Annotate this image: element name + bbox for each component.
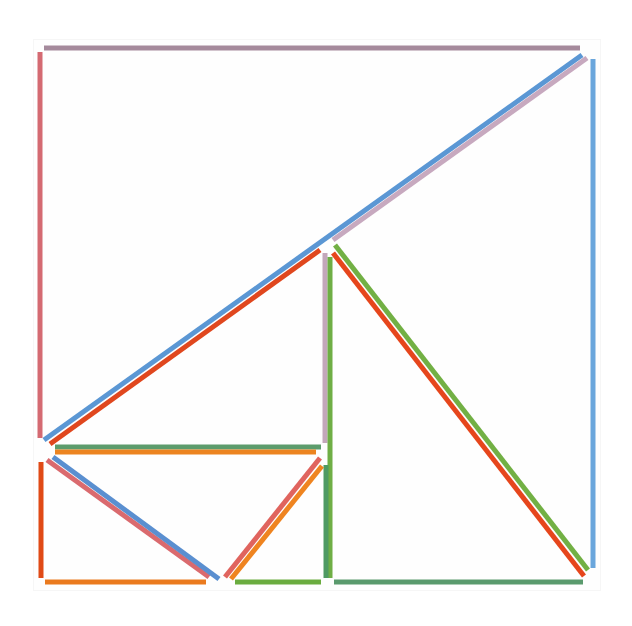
left-v-diagonal-pink-line: [47, 460, 209, 577]
right-triangle-green-line: [335, 245, 588, 570]
big-diagonal-mauve-line: [333, 58, 587, 240]
big-diagonal-blue-line: [44, 55, 582, 440]
right-v-diagonal-pink-line: [225, 458, 320, 577]
left-v-diagonal-blue-line: [53, 457, 219, 579]
artwork-canvas: [0, 0, 632, 626]
big-diagonal-red-line: [50, 250, 320, 444]
right-v-diagonal-orange-line: [231, 466, 322, 579]
geometric-line-artwork: [0, 0, 632, 626]
right-triangle-red-line: [333, 253, 584, 576]
